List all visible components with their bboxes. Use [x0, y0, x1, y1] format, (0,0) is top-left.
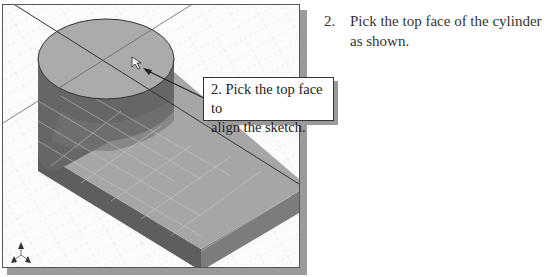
step-number: 2. — [324, 11, 335, 31]
step-text-line-1: Pick the top face of the cylinder — [350, 11, 546, 31]
callout-box: 2. Pick the top face to align the sketch… — [203, 77, 334, 121]
cylinder-top-face — [38, 19, 174, 99]
callout-line-1: 2. Pick the top face to — [211, 80, 333, 118]
callout-line-2: align the sketch. — [211, 118, 333, 137]
step-text-line-2: as shown. — [350, 31, 546, 51]
